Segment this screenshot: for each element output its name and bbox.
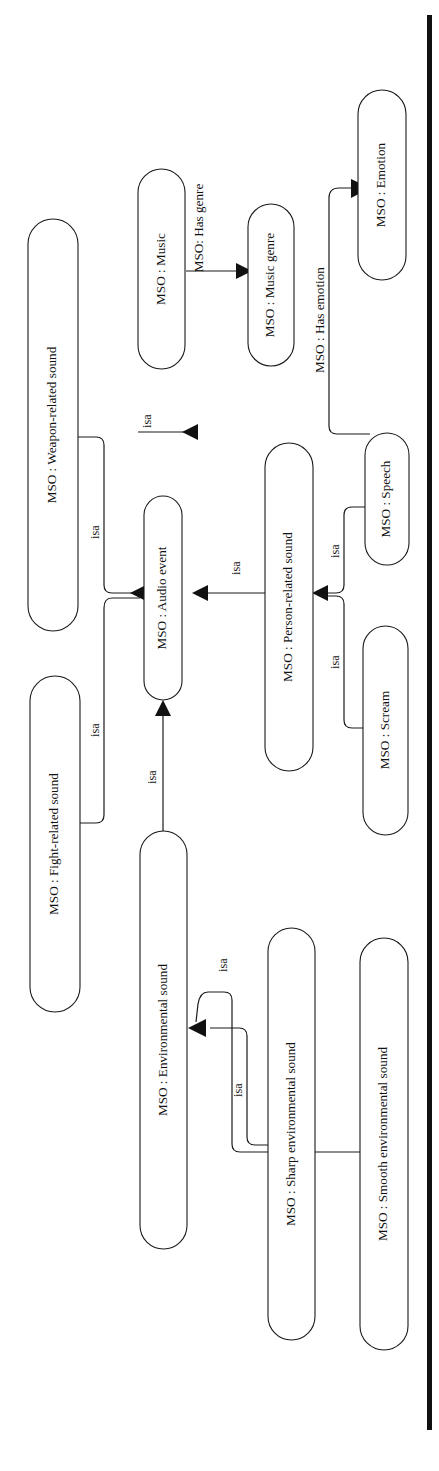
ontology-diagram: Audio event (horizontal, pointing left) … <box>0 0 439 1471</box>
node-label: MSO : Sharp environmental sound <box>283 1042 298 1226</box>
node-label: MSO : Environmental sound <box>155 964 170 1116</box>
arrowhead-icon <box>188 1019 206 1037</box>
figure-page: Audio event (horizontal, pointing left) … <box>0 0 439 1471</box>
edge-line <box>80 598 140 823</box>
node-environmental-sound[interactable]: MSO : Environmental sound <box>140 831 187 1249</box>
node-label: MSO : Emotion <box>373 142 388 227</box>
node-label: MSO : Weapon-related sound <box>44 346 59 503</box>
edge-person-isa: isa <box>192 561 265 601</box>
edge-label-smooth-isa: isa <box>216 958 230 972</box>
edge-environmental-isa: isa <box>145 700 171 832</box>
edge-label-environmental-isa: isa <box>145 770 159 784</box>
edge-line <box>78 437 140 593</box>
node-music-genre[interactable]: MSO : Music genre <box>248 204 294 366</box>
node-emotion[interactable]: MSO : Emotion <box>358 90 406 280</box>
node-weapon-related-sound[interactable]: MSO : Weapon-related sound <box>28 219 78 631</box>
node-label: MSO : Smooth environmental sound <box>375 1047 390 1242</box>
edge-label-sharp-isa: isa <box>231 1083 245 1097</box>
node-label: MSO : Audio event <box>154 546 169 649</box>
edge-scream-isa: isa <box>320 596 363 728</box>
node-person-related-sound[interactable]: MSO : Person-related sound <box>265 443 313 771</box>
arrowhead-icon <box>192 585 208 601</box>
node-music[interactable]: MSO : Music <box>138 169 185 369</box>
node-scream[interactable]: MSO : Scream <box>363 626 408 835</box>
arrowhead-icon <box>182 424 198 440</box>
node-label: MSO : Music <box>153 233 168 305</box>
edge-label-has-emotion: MSO : Has emotion <box>312 267 327 373</box>
edge-label-has-genre: MSO: Has genre <box>191 184 206 273</box>
arrowhead-icon <box>155 700 171 716</box>
edge-weapon-isa: isa <box>78 437 146 601</box>
node-label: MSO : Music genre <box>262 233 277 338</box>
node-fight-related-sound[interactable]: MSO : Fight-related sound <box>30 676 80 1012</box>
edge-speech-isa: isa <box>312 507 365 601</box>
edge-label-fight-isa: isa <box>88 723 102 737</box>
arrowhead-icon <box>312 585 328 601</box>
edge-fight-isa: isa <box>80 598 140 823</box>
edge-has-genre: MSO: Has genre <box>186 184 252 279</box>
node-label: MSO : Fight-related sound <box>46 773 61 915</box>
edge-label-music-isa: isa <box>140 414 154 428</box>
node-sharp-environmental-sound[interactable]: MSO : Sharp environmental sound <box>268 928 315 1340</box>
edge-label-weapon-isa: isa <box>88 525 102 539</box>
node-smooth-environmental-sound[interactable]: MSO : Smooth environmental sound <box>360 938 408 1350</box>
edge-label-scream-isa: isa <box>328 655 342 669</box>
edge-label-person-isa: isa <box>229 561 243 575</box>
node-label: MSO : Speech <box>378 460 393 537</box>
page-gutter-rule <box>427 15 432 1430</box>
node-speech[interactable]: MSO : Speech <box>365 433 409 565</box>
node-label: MSO : Person-related sound <box>280 532 295 682</box>
node-label: MSO : Scream <box>377 690 392 769</box>
edge-line <box>320 507 365 593</box>
edge-music-isa: isa <box>138 414 198 440</box>
node-audio-event[interactable]: MSO : Audio event <box>144 496 182 700</box>
edge-sharp-isa: isa <box>188 1019 268 1145</box>
edge-label-speech-isa: isa <box>328 544 342 558</box>
